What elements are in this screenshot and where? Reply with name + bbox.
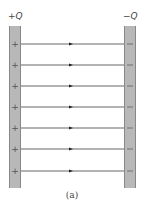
figure-caption: (a) — [0, 190, 144, 200]
plus-charge-icon: + — [11, 60, 19, 70]
arrow-right-icon — [69, 169, 73, 172]
plus-charge-icon: + — [11, 39, 19, 49]
plus-charge-icon: + — [11, 81, 19, 91]
arrow-right-icon — [69, 42, 73, 45]
arrow-right-icon — [69, 147, 73, 150]
plus-charge-icon: + — [11, 123, 19, 133]
arrow-right-icon — [69, 63, 73, 66]
plus-charge-icon: + — [11, 102, 19, 112]
plus-charge-icon: + — [11, 166, 19, 176]
arrow-right-icon — [69, 105, 73, 108]
arrow-right-icon — [69, 126, 73, 129]
plus-charge-icon: + — [11, 144, 19, 154]
arrow-right-icon — [69, 84, 73, 87]
electric-field-lines: +++++++ — [0, 0, 144, 211]
